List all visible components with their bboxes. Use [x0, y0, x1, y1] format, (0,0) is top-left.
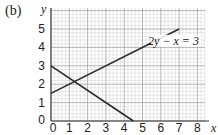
y-tick-label: 5 [38, 22, 45, 36]
equation-label: 2y − x = 3 [148, 34, 199, 48]
annotations: 2y − x = 3 [148, 34, 201, 48]
y-axis-label: y [40, 2, 47, 16]
x-tick-label: 5 [139, 121, 146, 135]
x-tick-label: 0 [50, 121, 57, 135]
x-tick-label: 4 [121, 121, 128, 135]
x-axis-label: x [210, 121, 217, 135]
y-tick-label: 4 [38, 40, 45, 54]
y-tick-label: 1 [38, 96, 45, 110]
x-tick-label: 6 [157, 121, 164, 135]
y-tick-label: 0 [38, 113, 45, 127]
y-tick-label: 3 [38, 59, 45, 73]
y-tick-label: 2 [38, 77, 45, 91]
x-tick-label: 2 [84, 121, 91, 135]
line-graph: 012345678012345xy 2y − x = 3 [0, 0, 218, 135]
x-tick-label: 1 [66, 121, 73, 135]
grid-minor [51, 8, 205, 121]
axes [51, 8, 209, 121]
x-tick-label: 3 [103, 121, 110, 135]
x-tick-label: 8 [194, 121, 201, 135]
series-line [51, 66, 133, 121]
x-tick-label: 7 [176, 121, 183, 135]
